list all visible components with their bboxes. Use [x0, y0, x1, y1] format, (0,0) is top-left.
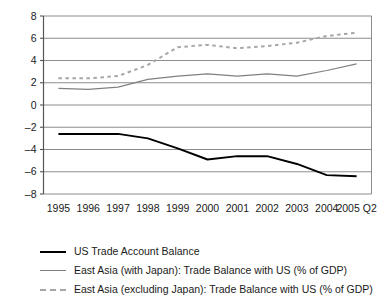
legend-item-east-asia-with-japan: East Asia (with Japan): Trade Balance wi…	[40, 260, 380, 279]
y-tick-label: 4	[31, 54, 37, 66]
x-tick-label: 2002	[255, 202, 279, 214]
legend-swatch-solid-black-icon	[40, 245, 66, 257]
y-tick-label: 6	[31, 32, 37, 44]
legend-swatch-dashed-gray-icon	[40, 283, 66, 295]
legend-item-us-trade-account-balance: US Trade Account Balance	[40, 241, 380, 260]
y-tick-label: 2	[31, 76, 37, 88]
x-tick-label: 1995	[47, 202, 71, 214]
y-tick-label: –4	[25, 143, 37, 155]
x-axis-tick-labels: 1995199619971998199920002001200220032004…	[47, 202, 377, 214]
series-line-3	[58, 33, 356, 79]
legend-item-east-asia-excluding-japan: East Asia (excluding Japan): Trade Balan…	[40, 279, 380, 298]
legend-swatch-solid-gray-icon	[40, 264, 66, 276]
legend-item-label: East Asia (excluding Japan): Trade Balan…	[74, 283, 373, 295]
y-tick-label: 0	[31, 99, 37, 111]
legend-item-label: East Asia (with Japan): Trade Balance wi…	[74, 264, 347, 276]
x-tick-label: 2004	[315, 202, 339, 214]
y-tick-label: –8	[25, 188, 37, 200]
y-tick-label: –2	[25, 121, 37, 133]
chart-figure: 86420–2–4–6–8 19951996199719981999200020…	[0, 0, 380, 302]
x-tick-label: 2000	[196, 202, 220, 214]
x-tick-label: 1999	[166, 202, 190, 214]
y-tick-label: –6	[25, 165, 37, 177]
y-tick-label: 8	[31, 10, 37, 22]
x-tick-label: 2005 Q2	[336, 202, 376, 214]
x-tick-label: 1997	[106, 202, 130, 214]
series-line-1	[58, 134, 356, 176]
x-tick-label: 1998	[136, 202, 160, 214]
grid-lines	[44, 16, 372, 194]
legend-item-label: US Trade Account Balance	[74, 245, 200, 257]
x-tick-label: 2001	[226, 202, 250, 214]
x-tick-label: 1996	[77, 202, 101, 214]
chart-legend: US Trade Account Balance East Asia (with…	[40, 241, 380, 298]
y-axis-tick-labels: 86420–2–4–6–8	[25, 10, 37, 200]
data-series-group	[58, 33, 356, 177]
x-tick-label: 2003	[285, 202, 309, 214]
